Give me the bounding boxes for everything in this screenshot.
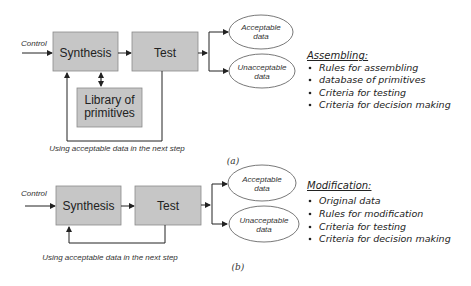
synthesis-box-a: Synthesis [53,32,118,71]
modification-item: Criteria for decision making [319,233,451,244]
acceptable-label-b-2: data [254,184,270,193]
assembling-title: Assembling: [306,50,368,61]
unacceptable-label-a: Unacceptable [238,63,287,72]
bullet-icon [309,226,312,229]
bullet-icon [309,213,312,216]
test-box-b: Test [135,186,201,225]
acceptable-label-a-2: data [253,32,269,41]
bullet-icon [309,200,312,203]
bullet-icon [309,238,312,241]
test-box-a: Test [132,32,198,71]
bullet-icon [309,67,312,70]
acceptable-data-ellipse-b: Acceptable data [228,165,296,201]
feedback-caption-a: Using acceptable data in the next step [49,144,185,153]
library-label-line1: Library of [84,93,135,107]
assembling-item: database of primitives [319,74,426,85]
feedback-loop-b [69,225,165,243]
modification-list: Modification: Original data Rules for mo… [307,180,451,244]
assembling-list: Assembling: Rules for assembling databas… [306,50,451,110]
modification-item: Original data [319,195,381,206]
acceptable-label-b: Acceptable [241,175,282,184]
assembling-item: Criteria for testing [319,87,406,98]
bullet-icon [309,104,312,107]
unacceptable-label-b-2: data [256,225,272,234]
library-label-line2: primitives [84,106,135,120]
bullet-icon [309,79,312,82]
unacceptable-label-b: Unacceptable [240,216,289,225]
feedback-caption-b: Using acceptable data in the next step [42,253,178,262]
modification-title: Modification: [307,180,371,191]
bullet-icon [309,92,312,95]
acceptable-data-ellipse-a: Acceptable data [229,15,293,49]
unacceptable-label-a-2: data [254,72,270,81]
assembling-item: Rules for assembling [319,62,418,73]
diagram-canvas: Control Synthesis Test Acceptable data U… [0,0,471,286]
control-label-b: Control [21,189,47,198]
diagram-a: Control Synthesis Test Acceptable data U… [21,15,451,166]
sub-label-a: (a) [227,156,240,166]
library-box: Library of primitives [77,88,142,127]
unacceptable-data-ellipse-b: Unacceptable data [229,206,299,242]
modification-item: Criteria for testing [319,221,406,232]
diagram-b: Control Synthesis Test Acceptable data U… [21,165,451,272]
synthesis-box-b: Synthesis [56,186,121,225]
assembling-item: Criteria for decision making [319,99,451,110]
synthesis-label-a: Synthesis [59,46,111,60]
control-label-a: Control [21,39,47,48]
test-label-a: Test [154,46,177,60]
unacceptable-data-ellipse-a: Unacceptable data [229,54,295,88]
acceptable-label-a: Acceptable [240,23,281,32]
modification-item: Rules for modification [319,208,423,219]
test-label-b: Test [157,199,180,213]
sub-label-b: (b) [232,262,245,272]
synthesis-label-b: Synthesis [62,199,114,213]
